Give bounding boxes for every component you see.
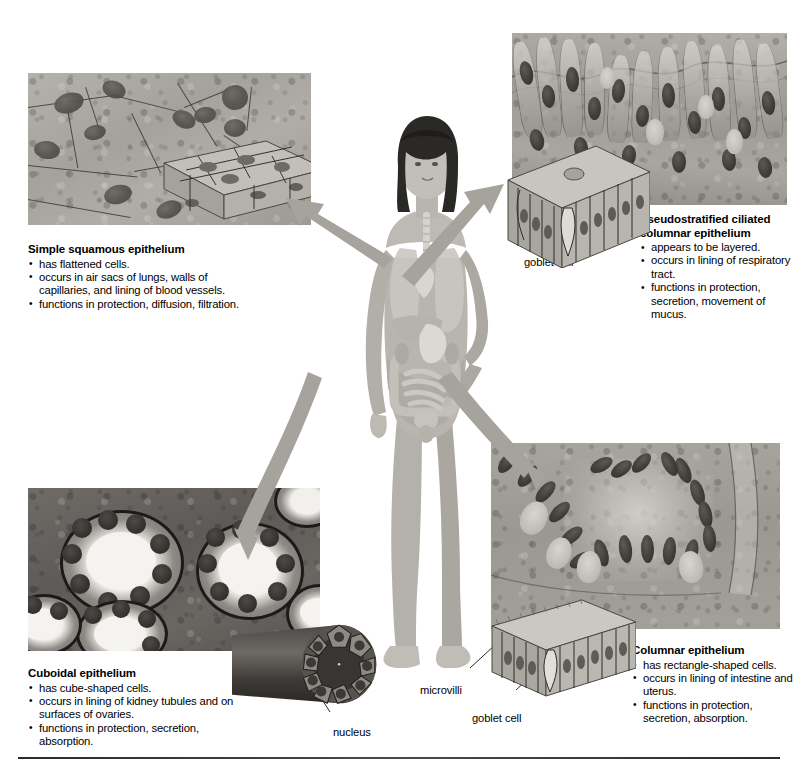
caption-pseudostratified: Pseudostratified ciliated columnar epith… — [640, 213, 792, 321]
caption-title: Columnar epithelium — [632, 644, 794, 658]
caption-bullet: functions in protection, secretion, abso… — [28, 722, 256, 749]
caption-title: Simple squamous epithelium — [28, 243, 258, 257]
caption-bullet-list: has cube-shaped cells. occurs in lining … — [28, 682, 256, 749]
caption-cuboidal: Cuboidal epithelium has cube-shaped cell… — [28, 667, 256, 749]
caption-title: Cuboidal epithelium — [28, 667, 256, 681]
caption-bullet: occurs in air sacs of lungs, walls of ca… — [28, 271, 258, 298]
label-microvilli: microvilli — [420, 684, 462, 696]
pseudostratified-block-diagram — [500, 128, 650, 268]
caption-bullet: occurs in lining of kidney tubules and o… — [28, 695, 256, 722]
label-nucleus: nucleus — [333, 726, 371, 738]
caption-bullet: has cube-shaped cells. — [28, 682, 256, 695]
columnar-block-diagram — [486, 586, 636, 706]
label-goblet-cell-bottom: goblet cell — [472, 712, 521, 724]
caption-columnar: Columnar epithelium has rectangle-shaped… — [632, 644, 794, 726]
kidney-tubule-cylinder-model — [232, 620, 402, 722]
epithelial-tissue-figure: Simple squamous epithelium has flattened… — [0, 0, 796, 772]
squamous-block-diagram — [146, 123, 311, 225]
caption-bullet-list: has rectangle-shaped cells. occurs in li… — [632, 659, 794, 726]
caption-bullet: functions in protection, secretion, abso… — [632, 699, 794, 726]
bottom-divider-rule — [18, 757, 780, 759]
caption-simple-squamous: Simple squamous epithelium has flattened… — [28, 243, 258, 311]
caption-bullet: has rectangle-shaped cells. — [632, 659, 794, 672]
human-body-anatomy-figure — [330, 108, 520, 668]
caption-bullet: functions in protection, secretion, move… — [640, 281, 792, 321]
caption-bullet: occurs in lining of intestine and uterus… — [632, 672, 794, 699]
caption-bullet: occurs in lining of respiratory tract. — [640, 254, 792, 281]
caption-bullet: has flattened cells. — [28, 258, 258, 271]
caption-title: Pseudostratified ciliated columnar epith… — [640, 213, 792, 240]
caption-bullet-list: has flattened cells. occurs in air sacs … — [28, 258, 258, 312]
simple-squamous-micrograph — [28, 73, 311, 225]
caption-bullet-list: appears to be layered. occurs in lining … — [640, 241, 792, 321]
caption-bullet: functions in protection, diffusion, filt… — [28, 298, 258, 311]
caption-bullet: appears to be layered. — [640, 241, 792, 254]
